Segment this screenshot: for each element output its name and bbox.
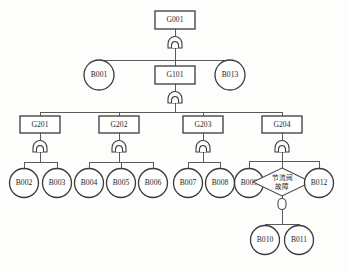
- node-b002[interactable]: B002: [10, 169, 39, 198]
- node-throttle-label-line1: 节流阀: [272, 173, 293, 182]
- node-g203-label: G203: [195, 120, 212, 129]
- node-g001[interactable]: G001: [155, 11, 195, 29]
- node-g201[interactable]: G201: [20, 116, 60, 133]
- gate-and-g201: [33, 141, 47, 153]
- node-b004[interactable]: B004: [75, 169, 104, 198]
- node-g203[interactable]: G203: [183, 116, 223, 133]
- node-g201-label: G201: [32, 120, 49, 129]
- node-b002-label: B002: [16, 178, 33, 187]
- fault-tree-canvas: G001 B001 G101 B013 G201 G202: [0, 0, 349, 271]
- node-g101-label: G101: [167, 70, 184, 79]
- node-b005[interactable]: B005: [107, 169, 136, 198]
- node-b001-label: B001: [91, 70, 108, 79]
- node-b007[interactable]: B007: [174, 169, 203, 198]
- gate-and-g203: [196, 141, 210, 153]
- node-b010[interactable]: B010: [251, 226, 280, 255]
- gate-or-throttle: [278, 199, 286, 210]
- node-b010-label: B010: [257, 235, 274, 244]
- node-b004-label: B004: [81, 178, 98, 187]
- fault-tree-diagram: G001 B001 G101 B013 G201 G202: [0, 0, 349, 271]
- gate-and-g001: [168, 37, 182, 49]
- node-b005-label: B005: [113, 178, 130, 187]
- node-g202-label: G202: [111, 120, 128, 129]
- node-g101[interactable]: G101: [155, 66, 195, 84]
- node-b008[interactable]: B008: [206, 169, 235, 198]
- node-g204[interactable]: G204: [262, 116, 302, 133]
- gate-and-g202: [112, 141, 126, 153]
- node-throttle-valve-failure[interactable]: 节流阀 故障: [253, 168, 311, 196]
- node-g202[interactable]: G202: [99, 116, 139, 133]
- node-b013-label: B013: [222, 70, 239, 79]
- node-b012[interactable]: B012: [305, 169, 334, 198]
- node-b006[interactable]: B006: [139, 169, 168, 198]
- node-b006-label: B006: [145, 178, 162, 187]
- gate-and-g101: [168, 92, 182, 103]
- node-b012-label: B012: [311, 178, 328, 187]
- node-b007-label: B007: [180, 178, 197, 187]
- node-b013[interactable]: B013: [215, 60, 245, 90]
- gate-and-g204: [275, 141, 289, 153]
- node-throttle-label-line2: 故障: [275, 182, 289, 191]
- node-b011-label: B011: [291, 235, 307, 244]
- node-b011[interactable]: B011: [285, 226, 314, 255]
- node-b003-label: B003: [49, 178, 66, 187]
- node-b003[interactable]: B003: [43, 169, 72, 198]
- node-b008-label: B008: [212, 178, 229, 187]
- node-g204-label: G204: [274, 120, 291, 129]
- node-g001-label: G001: [167, 15, 184, 24]
- node-b001[interactable]: B001: [84, 60, 114, 90]
